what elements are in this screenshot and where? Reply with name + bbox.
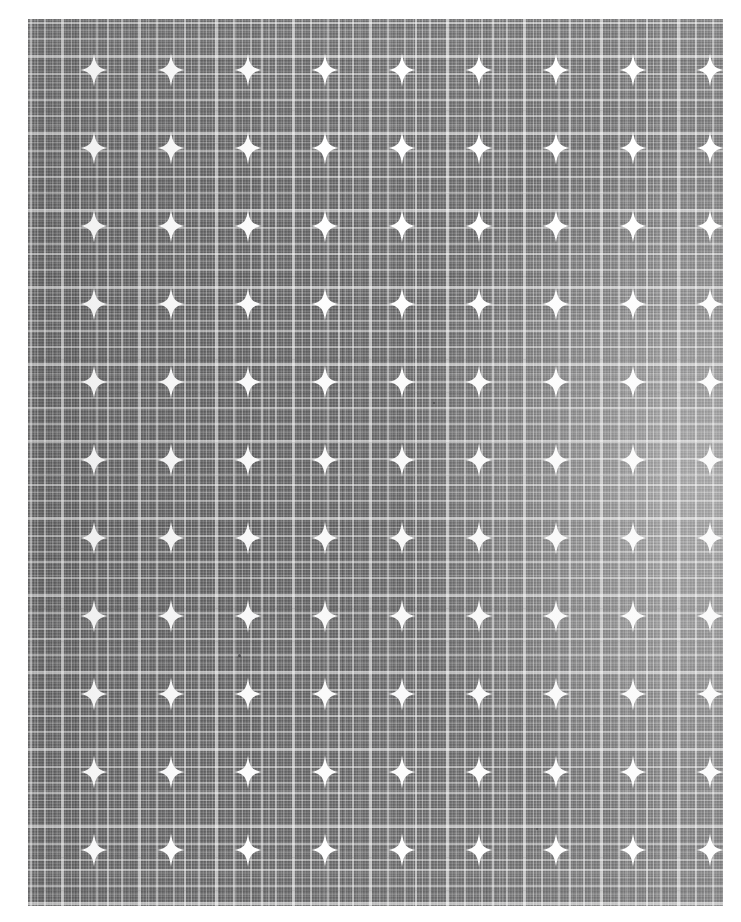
star-motif (388, 132, 416, 165)
star-motif (388, 522, 416, 555)
fabric-fleck (433, 402, 435, 404)
star-motif (234, 210, 262, 243)
star-motif (696, 210, 723, 243)
star-motif (234, 132, 262, 165)
star-motif (696, 678, 723, 711)
star-motif (388, 600, 416, 633)
star-motif (234, 288, 262, 321)
star-motif (619, 678, 647, 711)
star-motif (388, 444, 416, 477)
star-motif (388, 678, 416, 711)
star-motif (465, 678, 493, 711)
star-motif (542, 600, 570, 633)
star-motif (696, 366, 723, 399)
star-motif (542, 288, 570, 321)
star-motif (157, 288, 185, 321)
star-motif (696, 54, 723, 87)
star-motif (619, 600, 647, 633)
star-motif (619, 54, 647, 87)
star-motif (542, 834, 570, 867)
star-motif (311, 834, 339, 867)
star-motif (542, 366, 570, 399)
star-motif (311, 444, 339, 477)
fabric-fleck (536, 828, 538, 830)
star-motif (619, 756, 647, 789)
star-motif (542, 522, 570, 555)
star-motif (619, 288, 647, 321)
star-motif (619, 444, 647, 477)
star-motif (542, 54, 570, 87)
star-motif (157, 522, 185, 555)
star-motif (311, 678, 339, 711)
star-motif (234, 366, 262, 399)
star-motif (311, 210, 339, 243)
star-motif (542, 210, 570, 243)
star-motif (234, 678, 262, 711)
star-motif (311, 54, 339, 87)
star-motif (388, 756, 416, 789)
star-motif (157, 834, 185, 867)
star-motif (619, 210, 647, 243)
star-motif (234, 54, 262, 87)
star-motif (80, 444, 108, 477)
star-motif (80, 756, 108, 789)
star-motif (234, 600, 262, 633)
star-motif (542, 132, 570, 165)
star-motif (311, 600, 339, 633)
star-motif (80, 288, 108, 321)
star-motif (80, 522, 108, 555)
star-motif (542, 678, 570, 711)
star-motif (696, 132, 723, 165)
star-motif (465, 288, 493, 321)
star-motif (696, 834, 723, 867)
star-motif (465, 132, 493, 165)
star-motif-grid (28, 19, 723, 906)
star-motif (311, 132, 339, 165)
star-motif (311, 288, 339, 321)
star-motif (80, 678, 108, 711)
star-motif (80, 54, 108, 87)
star-motif (696, 288, 723, 321)
star-motif (619, 522, 647, 555)
star-motif (234, 756, 262, 789)
star-motif (80, 600, 108, 633)
star-motif (311, 522, 339, 555)
star-motif (234, 444, 262, 477)
star-motif (696, 600, 723, 633)
star-motif (157, 756, 185, 789)
star-motif (157, 444, 185, 477)
star-motif (542, 444, 570, 477)
fabric-fleck (238, 654, 241, 657)
star-motif (696, 756, 723, 789)
star-motif (388, 834, 416, 867)
image-canvas (0, 0, 741, 922)
star-motif (619, 834, 647, 867)
star-motif (388, 210, 416, 243)
star-motif (80, 132, 108, 165)
star-motif (157, 54, 185, 87)
fabric-swatch (28, 19, 723, 906)
star-motif (234, 522, 262, 555)
star-motif (542, 756, 570, 789)
star-motif (465, 600, 493, 633)
star-motif (465, 210, 493, 243)
star-motif (80, 210, 108, 243)
star-motif (465, 366, 493, 399)
star-motif (157, 366, 185, 399)
star-motif (619, 132, 647, 165)
star-motif (465, 522, 493, 555)
star-motif (465, 834, 493, 867)
star-motif (696, 522, 723, 555)
star-motif (465, 54, 493, 87)
star-motif (80, 834, 108, 867)
star-motif (157, 210, 185, 243)
star-motif (388, 288, 416, 321)
star-motif (157, 132, 185, 165)
star-motif (157, 678, 185, 711)
star-motif (80, 366, 108, 399)
star-motif (388, 54, 416, 87)
star-motif (311, 366, 339, 399)
star-motif (157, 600, 185, 633)
star-motif (388, 366, 416, 399)
star-motif (234, 834, 262, 867)
